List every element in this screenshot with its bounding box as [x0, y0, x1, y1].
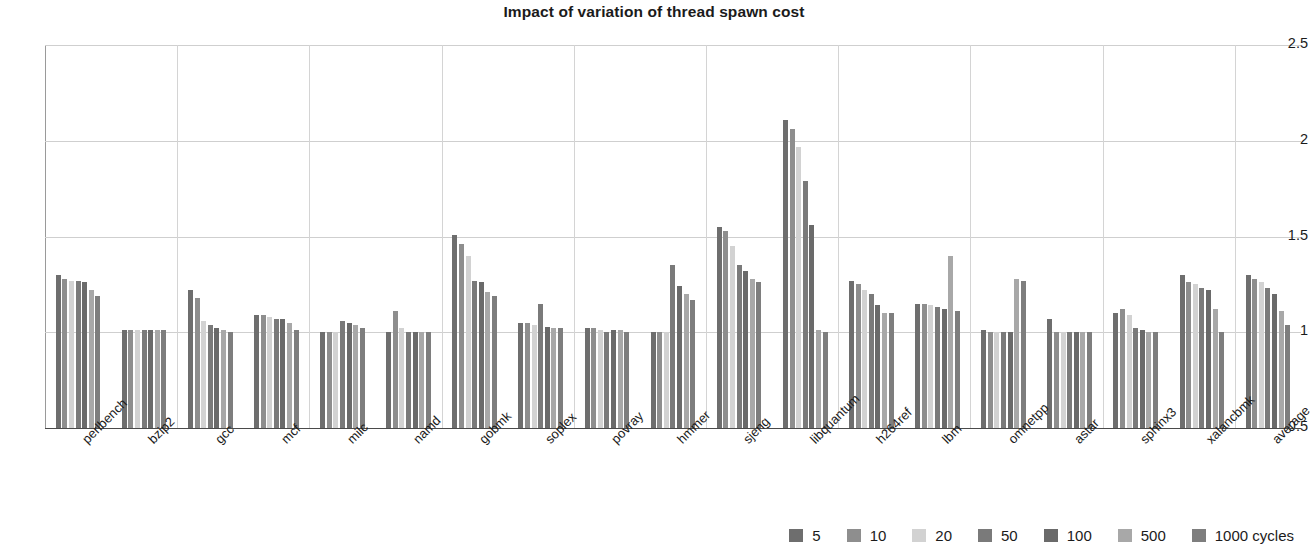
legend-label: 1000 cycles [1215, 527, 1294, 544]
bar-group [772, 45, 838, 428]
bar [69, 281, 74, 428]
bar [558, 328, 563, 428]
bar [320, 332, 325, 428]
legend-swatch [789, 529, 803, 542]
legend-item: 100 [1044, 527, 1092, 544]
bar [948, 256, 953, 428]
legend-label: 20 [935, 527, 952, 544]
bar [823, 332, 828, 428]
bar [254, 315, 259, 428]
bar-group [1037, 45, 1103, 428]
bar [525, 323, 530, 428]
bar [188, 290, 193, 428]
bar [62, 279, 67, 428]
bar [1193, 284, 1198, 428]
bar [783, 120, 788, 428]
bar [1199, 288, 1204, 428]
bar [723, 231, 728, 428]
bar [1087, 332, 1092, 428]
bar [1001, 332, 1006, 428]
bar [406, 332, 411, 428]
bar [677, 286, 682, 428]
bar [604, 332, 609, 428]
bar [148, 330, 153, 428]
bar [340, 321, 345, 428]
bar [479, 282, 484, 428]
bar [585, 328, 590, 428]
bar [1080, 332, 1085, 428]
bar [294, 330, 299, 428]
bar [611, 330, 616, 428]
bar [670, 265, 675, 428]
legend-item: 50 [978, 527, 1018, 544]
bar [492, 296, 497, 428]
bar [796, 147, 801, 429]
bar [1067, 332, 1072, 428]
bar [1265, 288, 1270, 428]
legend-swatch [847, 529, 861, 542]
bar [228, 332, 233, 428]
bar [882, 313, 887, 428]
bar [459, 244, 464, 428]
bar [942, 309, 947, 428]
legend-label: 50 [1001, 527, 1018, 544]
bar [452, 235, 457, 428]
legend-item: 500 [1118, 527, 1166, 544]
bar [664, 332, 669, 428]
bar [386, 332, 391, 428]
bar-group [111, 45, 177, 428]
bar [988, 332, 993, 428]
legend-label: 10 [870, 527, 887, 544]
bar [95, 296, 100, 428]
legend-label: 5 [812, 527, 820, 544]
bar [717, 227, 722, 428]
bar [1279, 311, 1284, 428]
bar [466, 256, 471, 428]
bar [287, 323, 292, 428]
bar [135, 330, 140, 428]
bar [551, 328, 556, 428]
bar [360, 328, 365, 428]
bar [155, 330, 160, 428]
bar-group [442, 45, 508, 428]
bar [327, 332, 332, 428]
bar [393, 311, 398, 428]
bar [598, 330, 603, 428]
bar [532, 325, 537, 428]
bar [756, 282, 761, 428]
bar [1140, 330, 1145, 428]
bar [618, 330, 623, 428]
bar [657, 332, 662, 428]
bar [750, 279, 755, 428]
bar-group [838, 45, 904, 428]
bar [1153, 332, 1158, 428]
bar-group [970, 45, 1036, 428]
bar [485, 292, 490, 428]
bar [1133, 328, 1138, 428]
bar-group [177, 45, 243, 428]
bar [208, 325, 213, 428]
bar [1127, 315, 1132, 428]
bar [1061, 332, 1066, 428]
legend-swatch [1118, 529, 1132, 542]
legend-label: 500 [1141, 527, 1166, 544]
bar [591, 328, 596, 428]
bar [889, 313, 894, 428]
bar-group [376, 45, 442, 428]
bar [195, 298, 200, 428]
bar [413, 332, 418, 428]
bar [426, 332, 431, 428]
legend-item: 10 [847, 527, 887, 544]
bar [267, 317, 272, 428]
bar [56, 275, 61, 428]
bar [1219, 332, 1224, 428]
bar [684, 294, 689, 428]
bar [538, 304, 543, 428]
legend-swatch [1044, 529, 1058, 542]
bar [1146, 332, 1151, 428]
bar [274, 319, 279, 428]
bar-group [1235, 45, 1301, 428]
bar-group [1103, 45, 1169, 428]
bar [1206, 290, 1211, 428]
bar [994, 332, 999, 428]
